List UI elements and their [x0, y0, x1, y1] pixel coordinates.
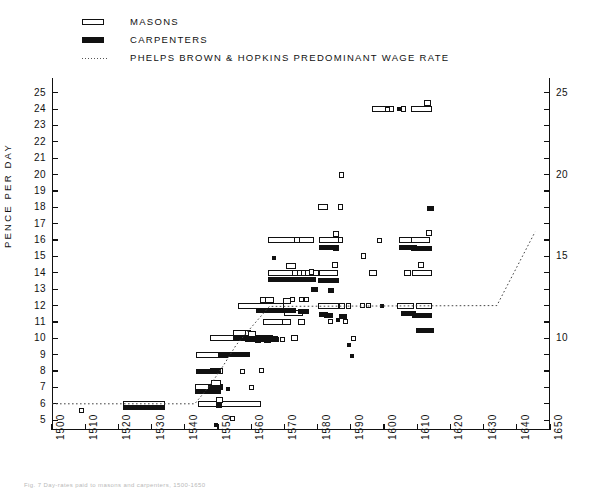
y-tick-label-right: 25: [556, 88, 595, 98]
y-tick-label-left: 17: [6, 219, 46, 229]
legend-label-carpenters: CARPENTERS: [130, 35, 208, 45]
solid-bar-icon: [82, 32, 108, 48]
y-tick-label-left: 12: [6, 301, 46, 311]
chart-plot-area: 5678910111213141516171819202122232425 10…: [52, 78, 550, 430]
y-tick-label-left: 22: [6, 137, 46, 147]
y-tick-label-left: 19: [6, 186, 46, 196]
y-tick-label-left: 7: [6, 382, 46, 392]
y-tick-label-left: 20: [6, 170, 46, 180]
y-tick-label-left: 18: [6, 202, 46, 212]
y-tick-label-right: 10: [556, 333, 595, 343]
open-bar-icon: [82, 14, 108, 30]
y-tick-label-left: 15: [6, 251, 46, 261]
dotted-line-icon: [82, 50, 108, 66]
y-tick-label-left: 16: [6, 235, 46, 245]
y-tick-label-left: 13: [6, 284, 46, 294]
y-tick-label-left: 10: [6, 333, 46, 343]
y-tick-label-left: 24: [6, 104, 46, 114]
chart-legend: MASONS CARPENTERS PHELPS BROWN & HOPKINS…: [82, 14, 502, 68]
y-tick-label-right: 15: [556, 251, 595, 261]
figure-caption: Fig. 7 Day-rates paid to masons and carp…: [24, 482, 206, 488]
y-tick-label-left: 23: [6, 120, 46, 130]
y-tick-label-left: 9: [6, 350, 46, 360]
pbh-trend-line: [52, 78, 550, 430]
y-tick-label-left: 14: [6, 268, 46, 278]
y-tick-label-left: 5: [6, 415, 46, 425]
legend-label-masons: MASONS: [130, 17, 179, 27]
legend-item-carpenters: CARPENTERS: [82, 32, 502, 48]
y-tick-label-left: 25: [6, 88, 46, 98]
y-tick-label-right: 20: [556, 170, 595, 180]
y-tick-label-left: 6: [6, 399, 46, 409]
y-tick-label-left: 11: [6, 317, 46, 327]
legend-item-pbh-rate: PHELPS BROWN & HOPKINS PREDOMINANT WAGE …: [82, 50, 502, 66]
y-tick-label-left: 21: [6, 153, 46, 163]
legend-label-pbh-rate: PHELPS BROWN & HOPKINS PREDOMINANT WAGE …: [130, 53, 449, 63]
y-tick-label-left: 8: [6, 366, 46, 376]
legend-item-masons: MASONS: [82, 14, 502, 30]
x-tick-label: 1650: [554, 414, 564, 440]
